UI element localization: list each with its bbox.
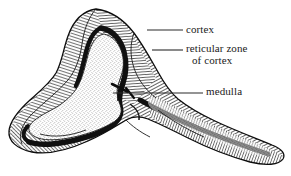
label-cortex: cortex bbox=[186, 24, 214, 36]
cross-section-illustration bbox=[0, 0, 291, 176]
anatomical-figure: cortex reticular zone of cortex medulla bbox=[0, 0, 291, 176]
label-medulla: medulla bbox=[206, 86, 242, 98]
label-reticular-zone-line2: of cortex bbox=[192, 55, 232, 67]
label-reticular-zone-line1: reticular zone bbox=[186, 43, 248, 55]
